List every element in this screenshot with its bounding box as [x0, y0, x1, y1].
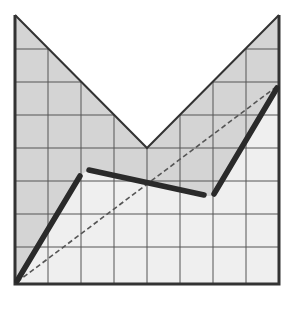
puzzle-diagram: [0, 0, 288, 314]
